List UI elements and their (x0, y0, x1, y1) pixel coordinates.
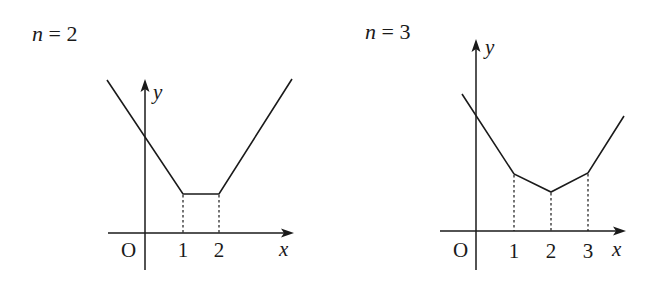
panel-n2: n = 2 y x O 1 2 (32, 21, 294, 270)
function-graph-n3 (462, 94, 624, 192)
function-graph-n2 (107, 79, 292, 194)
tick-label-3: 3 (583, 239, 594, 263)
origin-label: O (453, 238, 468, 262)
x-axis-label: x (278, 237, 289, 261)
y-axis-label: y (151, 80, 163, 104)
panel-title-n2: n = 2 (32, 21, 77, 46)
tick-label-2: 2 (214, 238, 225, 262)
y-axis-label: y (483, 35, 495, 59)
panel-title-n3: n = 3 (365, 19, 410, 44)
tick-label-2: 2 (546, 239, 557, 263)
diagram-canvas: n = 2 y x O 1 2 n = 3 y x O (0, 0, 659, 289)
x-axis-label: x (611, 237, 622, 261)
origin-label: O (121, 238, 136, 262)
tick-label-1: 1 (509, 239, 520, 263)
tick-label-1: 1 (178, 238, 189, 262)
panel-n3: n = 3 y x O 1 2 3 (365, 19, 626, 270)
